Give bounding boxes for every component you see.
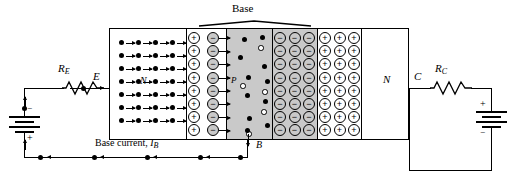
electron-arrow (177, 108, 186, 109)
cross-arrow (219, 130, 230, 131)
electron (263, 99, 268, 104)
battery-right-plate-3 (476, 121, 507, 123)
wire-emitter-left (24, 88, 64, 89)
electron-arrow (160, 108, 169, 109)
electron-arrow (177, 69, 186, 70)
charge-minus: − (274, 85, 286, 97)
electron (136, 40, 141, 45)
electron (119, 118, 124, 123)
electron-arrow (143, 108, 152, 109)
electron (136, 53, 141, 58)
charge-plus: + (319, 72, 331, 84)
wire-bottom-right (409, 170, 492, 171)
electron (246, 75, 251, 80)
wire-collector-left (409, 88, 431, 89)
electron-arrow (126, 95, 135, 96)
electron (265, 123, 270, 128)
emitter-current-arrow-up (25, 97, 26, 107)
base-current-arrow (48, 157, 62, 158)
charge-plus: + (334, 72, 346, 84)
electron (136, 66, 141, 71)
electron-arrow (160, 121, 169, 122)
electron-arrow (126, 82, 135, 83)
cross-arrow (219, 91, 230, 92)
charge-minus: − (207, 72, 219, 84)
charge-plus: + (334, 124, 346, 136)
battery-right-plate-2 (482, 116, 501, 118)
cross-arrow (219, 38, 230, 39)
charge-plus: + (188, 98, 200, 110)
electron (245, 93, 250, 98)
current-dot (92, 155, 97, 160)
electron (170, 79, 175, 84)
base-label: Base (232, 2, 253, 14)
charge-minus: − (289, 58, 301, 70)
base-current-arrow-up (25, 140, 26, 150)
electron (153, 66, 158, 71)
electron (153, 105, 158, 110)
electron-arrow (177, 121, 186, 122)
electron (119, 66, 124, 71)
base-current-arrow (101, 157, 115, 158)
diagram-canvas: Base N P N +−+−+−+−+−+−+−+− −−−+++−−−+++… (0, 0, 507, 186)
charge-minus: − (289, 45, 301, 57)
battery-right-plus-label: + (480, 98, 486, 109)
base-current-arrow (207, 157, 221, 158)
current-dot (245, 128, 250, 133)
electron (238, 55, 243, 60)
electron-arrow (177, 56, 186, 57)
electron (170, 53, 175, 58)
charge-plus: + (334, 85, 346, 97)
wire-collector-block-edge (409, 88, 410, 171)
electron (153, 79, 158, 84)
charge-minus: − (289, 124, 301, 136)
current-dot (238, 155, 243, 160)
electron (242, 37, 247, 42)
electron-arrow (160, 82, 169, 83)
charge-minus: − (274, 72, 286, 84)
electron (136, 79, 141, 84)
battery-left-plus-label: + (27, 132, 33, 143)
charge-minus: − (207, 32, 219, 44)
electron (119, 92, 124, 97)
electron-arrow (160, 56, 169, 57)
electron (153, 118, 158, 123)
electron (170, 105, 175, 110)
charge-minus: − (303, 32, 315, 44)
current-dot (145, 155, 150, 160)
charge-minus: − (289, 111, 301, 123)
charge-plus: + (348, 85, 360, 97)
electron (136, 92, 141, 97)
electron-arrow (143, 121, 152, 122)
semiconductor-block: N P N +−+−+−+−+−+−+−+− −−−+++−−−+++−−−++… (109, 28, 409, 140)
charge-plus: + (319, 85, 331, 97)
electron-arrow (143, 82, 152, 83)
charge-plus: + (319, 98, 331, 110)
electron (119, 79, 124, 84)
cross-arrow (219, 104, 230, 105)
charge-minus: − (274, 98, 286, 110)
charge-minus: − (303, 85, 315, 97)
electron (262, 64, 267, 69)
electron (153, 53, 158, 58)
electron-arrow (177, 95, 186, 96)
electron (136, 118, 141, 123)
wire-emitter-block-joint (109, 88, 110, 89)
electron (119, 105, 124, 110)
charge-plus: + (334, 98, 346, 110)
charge-plus: + (188, 32, 200, 44)
battery-right-plate-1 (476, 111, 507, 113)
resistor-emitter-label: RE (58, 62, 70, 76)
electron (153, 40, 158, 45)
base-bracket (198, 17, 313, 27)
current-dot (38, 155, 43, 160)
charge-plus: + (334, 32, 346, 44)
charge-minus: − (289, 98, 301, 110)
cross-arrow (219, 51, 230, 52)
electron-arrow (126, 56, 135, 57)
electron-arrow (160, 43, 169, 44)
charge-plus: + (334, 58, 346, 70)
electron (247, 116, 252, 121)
base-terminal-arrow-down (248, 134, 249, 146)
electron-arrow (143, 43, 152, 44)
